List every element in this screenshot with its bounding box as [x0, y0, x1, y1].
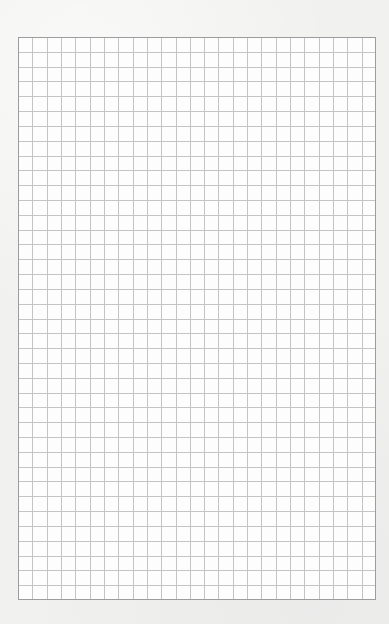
grid-lines	[19, 38, 375, 599]
graph-paper-sheet	[18, 37, 376, 600]
